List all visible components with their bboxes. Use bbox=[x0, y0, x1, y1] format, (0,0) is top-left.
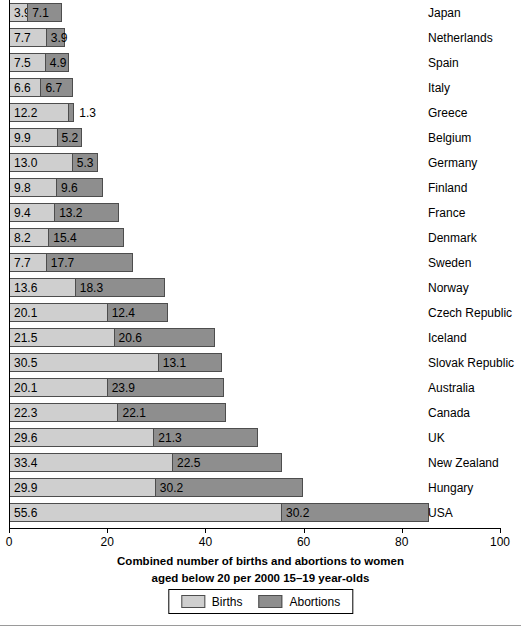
bar-value-births: 21.5 bbox=[14, 332, 37, 344]
bar-value-births: 20.1 bbox=[14, 307, 37, 319]
chart-row: 30.513.1Slovak Republic bbox=[0, 350, 521, 375]
bar-value-abortions: 17.7 bbox=[51, 257, 74, 269]
legend-item-abortions: Abortions bbox=[258, 595, 340, 608]
bar-value-births: 6.6 bbox=[14, 82, 31, 94]
x-tick-mark bbox=[107, 528, 108, 533]
stacked-bar: 22.322.1 bbox=[9, 403, 226, 422]
bar-segment-births: 13.6 bbox=[9, 278, 76, 297]
bar-value-abortions: 30.2 bbox=[286, 507, 309, 519]
category-label: Netherlands bbox=[428, 32, 493, 44]
bar-segment-births: 9.9 bbox=[9, 128, 58, 147]
stacked-bar: 7.54.9 bbox=[9, 53, 69, 72]
y-axis-line bbox=[9, 0, 10, 528]
stacked-bar: 8.215.4 bbox=[9, 228, 124, 247]
chart-legend: Births Abortions bbox=[168, 589, 353, 614]
category-label: Finland bbox=[428, 182, 467, 194]
chart-row: 20.112.4Czech Republic bbox=[0, 300, 521, 325]
plot-area: 3.97.1Japan7.73.9Netherlands7.54.9Spain6… bbox=[0, 0, 521, 534]
x-axis-title-line-2: aged below 20 per 2000 15–19 year-olds bbox=[0, 570, 521, 587]
chart-row: 12.21.3Greece bbox=[0, 100, 521, 125]
x-tick-mark bbox=[304, 528, 305, 533]
stacked-bar: 20.123.9 bbox=[9, 378, 224, 397]
bar-value-births: 55.6 bbox=[14, 507, 37, 519]
legend-item-births: Births bbox=[181, 595, 243, 608]
category-label: Greece bbox=[428, 107, 467, 119]
bar-value-abortions: 4.9 bbox=[50, 57, 67, 69]
bar-segment-abortions: 21.3 bbox=[153, 428, 258, 447]
bar-segment-abortions: 30.2 bbox=[281, 503, 429, 522]
category-label: Belgium bbox=[428, 132, 471, 144]
bar-value-births: 13.6 bbox=[14, 282, 37, 294]
chart-row: 9.89.6Finland bbox=[0, 175, 521, 200]
bar-segment-abortions: 1.3 bbox=[68, 103, 74, 122]
bar-value-abortions: 1.3 bbox=[79, 107, 96, 119]
bar-value-abortions: 12.4 bbox=[112, 307, 135, 319]
bar-segment-abortions: 15.4 bbox=[48, 228, 124, 247]
bar-value-births: 7.5 bbox=[14, 57, 31, 69]
category-label: France bbox=[428, 207, 465, 219]
bar-value-abortions: 3.9 bbox=[51, 32, 68, 44]
category-label: Japan bbox=[428, 7, 461, 19]
bar-value-births: 22.3 bbox=[14, 407, 37, 419]
category-label: Hungary bbox=[428, 482, 473, 494]
category-label: New Zealand bbox=[428, 457, 499, 469]
bar-segment-births: 29.6 bbox=[9, 428, 154, 447]
x-tick-mark bbox=[9, 528, 10, 533]
legend-swatch-abortions-icon bbox=[258, 595, 282, 608]
stacked-bar: 3.97.1 bbox=[9, 3, 62, 22]
bar-segment-abortions: 13.2 bbox=[54, 203, 119, 222]
bar-rows: 3.97.1Japan7.73.9Netherlands7.54.9Spain6… bbox=[0, 0, 521, 525]
bar-segment-births: 9.4 bbox=[9, 203, 55, 222]
x-tick-label: 0 bbox=[6, 536, 13, 548]
stacked-bar: 9.89.6 bbox=[9, 178, 103, 197]
x-tick-mark bbox=[402, 528, 403, 533]
bar-value-births: 13.0 bbox=[14, 157, 37, 169]
stacked-bar: 7.717.7 bbox=[9, 253, 133, 272]
stacked-bar: 6.66.7 bbox=[9, 78, 73, 97]
stacked-bar-chart: 3.97.1Japan7.73.9Netherlands7.54.9Spain6… bbox=[0, 0, 521, 632]
stacked-bar: 20.112.4 bbox=[9, 303, 168, 322]
chart-row: 3.97.1Japan bbox=[0, 0, 521, 25]
bar-segment-abortions: 23.9 bbox=[107, 378, 224, 397]
category-label: Norway bbox=[428, 282, 469, 294]
chart-row: 55.630.2USA bbox=[0, 500, 521, 525]
chart-row: 13.618.3Norway bbox=[0, 275, 521, 300]
legend-label-births: Births bbox=[212, 596, 243, 608]
bar-segment-births: 20.1 bbox=[9, 303, 108, 322]
bar-segment-abortions: 3.9 bbox=[46, 28, 65, 47]
chart-row: 21.520.6Iceland bbox=[0, 325, 521, 350]
category-label: Spain bbox=[428, 57, 459, 69]
stacked-bar: 55.630.2 bbox=[9, 503, 429, 522]
stacked-bar: 29.621.3 bbox=[9, 428, 258, 447]
bar-segment-births: 29.9 bbox=[9, 478, 156, 497]
bar-value-abortions: 21.3 bbox=[158, 432, 181, 444]
x-axis-line bbox=[9, 528, 501, 529]
chart-row: 29.621.3UK bbox=[0, 425, 521, 450]
bar-segment-abortions: 6.7 bbox=[40, 78, 73, 97]
bar-segment-abortions: 18.3 bbox=[75, 278, 165, 297]
bar-value-abortions: 18.3 bbox=[80, 282, 103, 294]
bar-value-abortions: 22.1 bbox=[122, 407, 145, 419]
bar-value-abortions: 5.3 bbox=[77, 157, 94, 169]
bar-segment-abortions: 4.9 bbox=[45, 53, 69, 72]
chart-row: 29.930.2Hungary bbox=[0, 475, 521, 500]
bar-segment-births: 22.3 bbox=[9, 403, 118, 422]
bar-segment-abortions: 5.3 bbox=[72, 153, 98, 172]
stacked-bar: 33.422.5 bbox=[9, 453, 282, 472]
x-tick-label: 20 bbox=[101, 536, 114, 548]
bar-segment-births: 9.8 bbox=[9, 178, 57, 197]
chart-row: 7.717.7Sweden bbox=[0, 250, 521, 275]
bar-value-abortions: 7.1 bbox=[32, 7, 49, 19]
category-label: Slovak Republic bbox=[428, 357, 514, 369]
x-axis-title-line-1: Combined number of births and abortions … bbox=[0, 553, 521, 570]
bar-segment-births: 13.0 bbox=[9, 153, 73, 172]
chart-row: 6.66.7Italy bbox=[0, 75, 521, 100]
category-label: Sweden bbox=[428, 257, 471, 269]
chart-row: 9.413.2France bbox=[0, 200, 521, 225]
bar-value-abortions: 22.5 bbox=[177, 457, 200, 469]
stacked-bar: 13.618.3 bbox=[9, 278, 165, 297]
x-tick-mark bbox=[205, 528, 206, 533]
bar-value-abortions: 15.4 bbox=[53, 232, 76, 244]
stacked-bar: 21.520.6 bbox=[9, 328, 215, 347]
category-label: Denmark bbox=[428, 232, 477, 244]
